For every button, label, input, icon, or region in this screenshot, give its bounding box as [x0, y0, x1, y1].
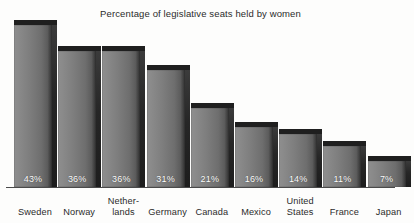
x-axis-label-line: Mexico — [231, 207, 281, 218]
bar-front-face — [147, 70, 185, 187]
bar-front-face — [102, 51, 140, 187]
x-axis-label-line: States — [275, 207, 325, 218]
bar-side-face — [361, 146, 366, 187]
x-axis-line — [6, 187, 395, 188]
bar-front-face — [368, 161, 406, 187]
bar-side-face — [52, 25, 57, 187]
bar-side-face — [140, 51, 145, 187]
bar-side-face — [185, 70, 190, 187]
bar-front-face — [279, 134, 317, 187]
x-axis-label-line: Japan — [364, 207, 414, 218]
x-axis-label-france: France — [319, 207, 369, 218]
x-axis-label-united-states: UnitedStates — [275, 196, 325, 218]
x-axis-label-line: Nether- — [98, 196, 148, 207]
x-axis-label-norway: Norway — [54, 207, 104, 218]
x-axis-label-line: Canada — [187, 207, 237, 218]
x-axis-label-sweden: Sweden — [10, 207, 60, 218]
bar-germany: 31% — [147, 65, 190, 187]
x-axis-label-canada: Canada — [187, 207, 237, 218]
bar-front-face — [323, 146, 361, 187]
bar-france: 11% — [323, 141, 366, 187]
bar-front-face — [191, 108, 229, 187]
bar-japan: 7% — [368, 156, 411, 187]
bar-sweden: 43% — [14, 20, 57, 187]
x-axis-label-line: France — [319, 207, 369, 218]
x-axis-label-japan: Japan — [364, 207, 414, 218]
bar-united-states: 14% — [279, 129, 322, 187]
bar-norway: 36% — [58, 46, 101, 187]
x-axis-label-line: lands — [98, 207, 148, 218]
x-axis-label-netherlands: Nether-lands — [98, 196, 148, 218]
bar-canada: 21% — [191, 103, 234, 187]
bar-front-face — [14, 25, 52, 187]
x-axis-label-line: Germany — [143, 207, 193, 218]
bar-front-face — [58, 51, 96, 187]
bar-side-face — [273, 127, 278, 187]
bar-front-face — [235, 127, 273, 187]
bar-side-face — [96, 51, 101, 187]
x-axis-label-germany: Germany — [143, 207, 193, 218]
bar-side-face — [406, 161, 411, 187]
bar-netherlands: 36% — [102, 46, 145, 187]
x-axis-label-line: Norway — [54, 207, 104, 218]
x-axis-label-mexico: Mexico — [231, 207, 281, 218]
x-axis-label-line: Sweden — [10, 207, 60, 218]
bar-mexico: 16% — [235, 122, 278, 187]
bar-side-face — [229, 108, 234, 187]
bar-side-face — [317, 134, 322, 187]
x-axis-label-line: United — [275, 196, 325, 207]
